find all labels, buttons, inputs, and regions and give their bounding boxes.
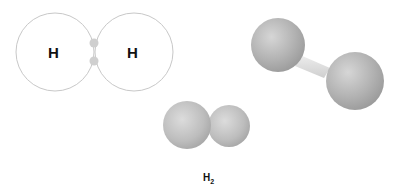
sphere-atom-right (208, 105, 250, 147)
right-atom-label: H (127, 44, 138, 61)
lewis-diagram (16, 13, 173, 91)
formula-label: H2 (203, 172, 214, 185)
space-filling-model (163, 101, 250, 149)
shared-electron-bottom (90, 57, 99, 66)
sphere-atom-left (163, 101, 211, 149)
shared-electron-top (90, 39, 99, 48)
ball-atom-right (326, 52, 384, 110)
ball-and-stick-model (251, 18, 384, 110)
formula-subscript: 2 (210, 178, 214, 185)
ball-atom-left (251, 18, 305, 72)
left-atom-label: H (48, 44, 59, 61)
hydrogen-molecule-diagram (0, 0, 399, 191)
